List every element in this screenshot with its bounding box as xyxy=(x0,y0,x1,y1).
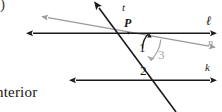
caption-paren: ) xyxy=(0,0,5,12)
label-angle-3: 3 xyxy=(158,48,165,61)
label-angle-2: 2 xyxy=(140,64,147,77)
label-point-p: P xyxy=(124,17,131,29)
label-line-n: n xyxy=(208,38,213,48)
label-line-k: k xyxy=(205,62,210,73)
label-transversal-t: t xyxy=(122,2,125,13)
label-angle-1: 1 xyxy=(139,41,146,54)
geometry-figure: ) t ℓ n k P 1 3 2 nterior xyxy=(0,0,222,112)
label-line-ell: ℓ xyxy=(206,14,211,27)
side-text-interior: nterior xyxy=(0,85,37,100)
point-p-dot xyxy=(127,32,129,34)
